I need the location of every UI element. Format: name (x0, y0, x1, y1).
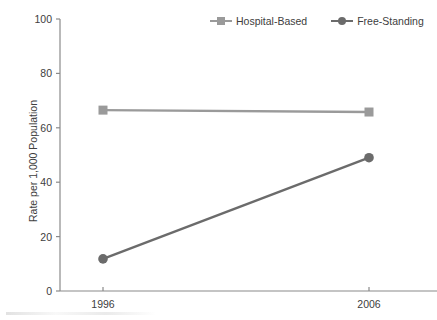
series-markers (98, 106, 374, 264)
scan-artifact (6, 312, 156, 315)
x-axis-tick-label-2006: 2006 (344, 298, 394, 310)
legend-label-free-standing: Free-Standing (357, 15, 424, 27)
data-point-free-standing-1996 (98, 254, 108, 264)
y-axis-tick-label-20: 20 (24, 232, 52, 242)
line-chart: Rate per 1,000 Population 020406080100 1… (0, 0, 437, 320)
data-point-hospital-based-2006 (365, 108, 374, 117)
legend-item-free-standing: Free-Standing (331, 13, 424, 29)
y-axis-tick-label-100: 100 (24, 14, 52, 24)
y-axis-tick-label-0: 0 (24, 286, 52, 296)
legend-square-marker-icon (210, 15, 232, 27)
data-point-free-standing-2006 (364, 153, 374, 163)
legend-label-hospital-based: Hospital-Based (236, 15, 307, 27)
series-line-hospital-based (103, 110, 369, 112)
y-axis-tick-label-40: 40 (24, 177, 52, 187)
data-point-hospital-based-1996 (99, 106, 108, 115)
legend-item-hospital-based: Hospital-Based (210, 13, 307, 29)
x-axis-tick-label-1996: 1996 (78, 298, 128, 310)
legend-circle-marker-icon (331, 15, 353, 27)
plot-area (0, 0, 437, 320)
series-line-free-standing (103, 158, 369, 259)
y-axis-tick-label-60: 60 (24, 123, 52, 133)
y-axis-tick-labels: 020406080100 (22, 0, 52, 320)
chart-legend: Hospital-Based Free-Standing (210, 13, 424, 29)
series-lines (103, 110, 369, 259)
y-axis-tick-label-80: 80 (24, 68, 52, 78)
